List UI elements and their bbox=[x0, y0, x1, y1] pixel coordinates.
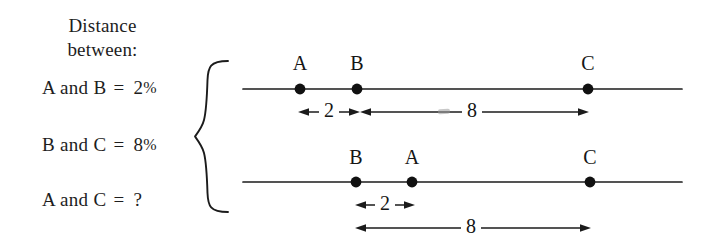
equation-unit: % bbox=[143, 79, 157, 96]
equation-operator: = bbox=[113, 134, 124, 155]
equation-left-operand: B and C bbox=[42, 134, 106, 155]
equation-row-b-and-c: B and C=8% bbox=[42, 134, 157, 156]
measure-label-2: 2 bbox=[375, 192, 395, 215]
equation-value: 8 bbox=[133, 134, 143, 155]
point-dot-b bbox=[352, 84, 363, 95]
equation-operator: = bbox=[113, 77, 124, 98]
heading-line-1: Distance bbox=[0, 15, 205, 37]
equation-row-a-and-c: A and C=? bbox=[42, 189, 142, 211]
equation-operator: = bbox=[113, 189, 124, 210]
point-label-c: C bbox=[583, 146, 596, 169]
point-dot-a bbox=[407, 177, 418, 188]
point-label-a: A bbox=[293, 52, 307, 75]
number-line-case-1: A B C 2 8 bbox=[236, 52, 715, 130]
point-label-b: B bbox=[349, 146, 362, 169]
heading-line-2: between: bbox=[0, 39, 205, 61]
point-label-c: C bbox=[581, 52, 594, 75]
distance-diagram-figure: Distance between: A and B=2% B and C=8% … bbox=[0, 0, 715, 244]
number-line-case-2: B A C 2 8 bbox=[236, 146, 715, 244]
curly-brace-icon bbox=[188, 58, 236, 220]
equation-value: 2 bbox=[133, 77, 143, 98]
point-dot-a bbox=[295, 84, 306, 95]
point-label-b: B bbox=[350, 52, 363, 75]
measure-label-8: 8 bbox=[461, 215, 481, 238]
point-dot-c bbox=[583, 84, 594, 95]
measure-label-8: 8 bbox=[462, 99, 482, 122]
point-dot-b bbox=[351, 177, 362, 188]
equation-left-operand: A and C bbox=[42, 189, 106, 210]
scan-smudge-artifact bbox=[438, 109, 450, 115]
point-dot-c bbox=[585, 177, 596, 188]
equation-value: ? bbox=[133, 189, 142, 210]
equation-unit: % bbox=[143, 136, 157, 153]
equation-row-a-and-b: A and B=2% bbox=[42, 77, 157, 99]
point-label-a: A bbox=[405, 146, 419, 169]
equation-left-operand: A and B bbox=[42, 77, 106, 98]
measure-label-2: 2 bbox=[319, 99, 339, 122]
legend-text-block: Distance between: A and B=2% B and C=8% … bbox=[0, 0, 205, 244]
